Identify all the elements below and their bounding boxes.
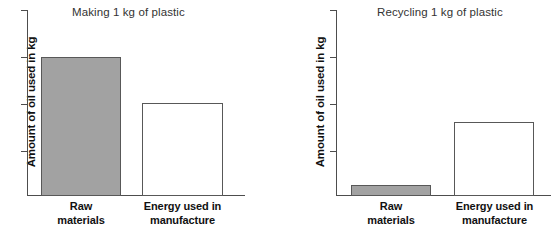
category-label-energy-used: Energy used in manufacture [135, 200, 230, 227]
bar-raw-materials [351, 185, 431, 196]
category-label-raw-materials: Raw materials [41, 200, 121, 227]
category-label-line-2: manufacture [447, 214, 542, 228]
category-label-line-2: materials [351, 214, 431, 228]
category-label-line-2: materials [41, 214, 121, 228]
y-axis-tick-1 [21, 151, 28, 152]
y-axis-line [336, 10, 337, 196]
bar-energy-used-in-manufacture [454, 122, 534, 196]
category-label-line-1: Energy used in [135, 200, 230, 214]
two-bar-charts-figure: Amount of oil used in kg Making 1 kg of … [0, 0, 551, 232]
bar-energy-used-in-manufacture [142, 103, 223, 196]
chart-title: Making 1 kg of plastic [72, 6, 185, 18]
chart-title: Recycling 1 kg of plastic [377, 6, 503, 18]
y-axis-tick-2 [330, 104, 337, 105]
chart-panel-making: Amount of oil used in kg Making 1 kg of … [0, 0, 270, 232]
category-label-line-1: Raw [351, 200, 431, 214]
y-axis-tick-3 [21, 57, 28, 58]
category-label-line-1: Energy used in [447, 200, 542, 214]
category-label-raw-materials: Raw materials [351, 200, 431, 227]
y-axis-tick-1 [330, 151, 337, 152]
y-axis-tick-2 [21, 104, 28, 105]
y-axis-label: Amount of oil used in kg [314, 12, 326, 192]
y-axis-tick-3 [330, 57, 337, 58]
y-axis-tick-4 [21, 10, 28, 11]
bar-raw-materials [41, 57, 121, 196]
category-label-line-2: manufacture [135, 214, 230, 228]
y-axis-line [27, 10, 28, 196]
category-label-energy-used: Energy used in manufacture [447, 200, 542, 227]
chart-panel-recycling: Amount of oil used in kg Recycling 1 kg … [281, 0, 551, 232]
y-axis-tick-4 [330, 10, 337, 11]
category-label-line-1: Raw [41, 200, 121, 214]
